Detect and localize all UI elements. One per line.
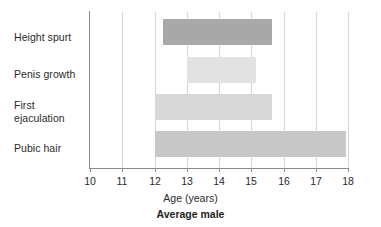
x-tick <box>155 168 156 172</box>
category-label-line: ejaculation <box>14 112 92 125</box>
category-label-line: First <box>14 99 92 112</box>
x-tick-label: 12 <box>142 175 168 187</box>
x-tick-label: 14 <box>206 175 232 187</box>
gridline <box>348 12 349 168</box>
bar-first-ejaculation <box>155 94 273 120</box>
bar-chart: Height spurt Penis growth First ejaculat… <box>0 0 381 227</box>
x-tick-label: 16 <box>271 175 297 187</box>
x-tick <box>251 168 252 172</box>
x-tick-label: 15 <box>238 175 264 187</box>
category-label-line: Pubic hair <box>14 142 92 155</box>
x-tick-label: 17 <box>303 175 329 187</box>
x-tick <box>316 168 317 172</box>
bar-pubic-hair <box>155 131 347 157</box>
bar-penis-growth <box>187 57 256 83</box>
chart-caption: Average male <box>0 208 381 220</box>
y-axis-line <box>89 11 90 169</box>
category-label-first-ejaculation: First ejaculation <box>14 99 92 124</box>
category-label-line: Penis growth <box>14 68 92 81</box>
x-axis-title: Age (years) <box>0 192 381 204</box>
category-label-penis-growth: Penis growth <box>14 68 92 81</box>
x-tick <box>219 168 220 172</box>
bar-height-spurt <box>163 19 273 45</box>
x-tick-label: 13 <box>174 175 200 187</box>
category-label-pubic-hair: Pubic hair <box>14 142 92 155</box>
x-tick <box>187 168 188 172</box>
x-tick-label: 11 <box>109 175 135 187</box>
x-tick <box>90 168 91 172</box>
category-label-height-spurt: Height spurt <box>14 31 92 44</box>
category-label-line: Height spurt <box>14 31 92 44</box>
plot-area <box>90 12 348 168</box>
x-tick <box>348 168 349 172</box>
x-tick-label: 10 <box>77 175 103 187</box>
gridline <box>122 12 123 168</box>
x-tick-label: 18 <box>335 175 361 187</box>
x-tick <box>284 168 285 172</box>
x-tick <box>122 168 123 172</box>
